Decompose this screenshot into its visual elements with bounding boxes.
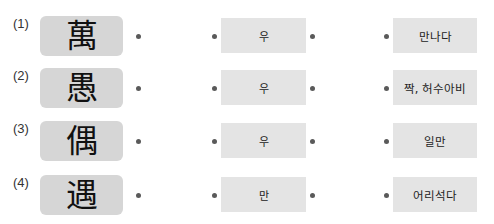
hanja-connector-dot[interactable] xyxy=(136,139,141,144)
reading-left-connector-dot[interactable] xyxy=(212,193,217,198)
hanja-card[interactable]: 偶 xyxy=(40,121,123,161)
meaning-card[interactable]: 일만 xyxy=(393,123,477,158)
hanja-connector-dot[interactable] xyxy=(136,86,141,91)
reading-card[interactable]: 우 xyxy=(221,123,306,158)
reading-right-connector-dot[interactable] xyxy=(310,86,315,91)
reading-right-connector-dot[interactable] xyxy=(310,139,315,144)
hanja-card[interactable]: 遇 xyxy=(40,175,123,215)
reading-left-connector-dot[interactable] xyxy=(212,34,217,39)
meaning-connector-dot[interactable] xyxy=(384,34,389,39)
reading-right-connector-dot[interactable] xyxy=(310,34,315,39)
reading-card[interactable]: 만 xyxy=(221,177,306,212)
hanja-connector-dot[interactable] xyxy=(136,34,141,39)
matching-row-1: (1) 萬 우 만나다 xyxy=(0,16,494,60)
hanja-connector-dot[interactable] xyxy=(136,193,141,198)
hanja-card[interactable]: 愚 xyxy=(40,68,123,108)
meaning-connector-dot[interactable] xyxy=(384,193,389,198)
hanja-card[interactable]: 萬 xyxy=(40,16,123,56)
item-number: (4) xyxy=(13,175,29,190)
meaning-connector-dot[interactable] xyxy=(384,86,389,91)
reading-left-connector-dot[interactable] xyxy=(212,139,217,144)
matching-row-2: (2) 愚 우 짝, 허수아비 xyxy=(0,68,494,112)
item-number: (3) xyxy=(13,121,29,136)
matching-row-3: (3) 偶 우 일만 xyxy=(0,121,494,165)
meaning-card[interactable]: 만나다 xyxy=(393,18,477,53)
item-number: (2) xyxy=(13,68,29,83)
reading-right-connector-dot[interactable] xyxy=(310,193,315,198)
reading-card[interactable]: 우 xyxy=(221,18,306,53)
item-number: (1) xyxy=(13,16,29,31)
reading-card[interactable]: 우 xyxy=(221,70,306,105)
matching-row-4: (4) 遇 만 어리석다 xyxy=(0,175,494,219)
meaning-card[interactable]: 어리석다 xyxy=(393,177,477,212)
meaning-connector-dot[interactable] xyxy=(384,139,389,144)
meaning-card[interactable]: 짝, 허수아비 xyxy=(393,70,477,105)
reading-left-connector-dot[interactable] xyxy=(212,86,217,91)
